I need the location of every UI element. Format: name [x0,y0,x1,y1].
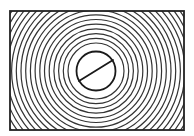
concentric-rings-diagram [0,0,194,136]
